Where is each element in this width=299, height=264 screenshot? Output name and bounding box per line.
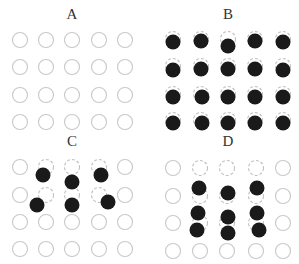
empty-circle [118,115,133,130]
empty-circle [13,160,28,175]
filled-dot [191,206,206,221]
filled-dot [36,168,51,183]
empty-circle [193,244,208,259]
dot-grid-figure: A B C D [0,0,299,264]
empty-circle [276,216,291,231]
empty-circle [13,242,28,257]
empty-circle [65,60,80,75]
filled-dot [276,116,291,131]
filled-dot [221,210,236,225]
filled-dot [101,195,116,210]
filled-dot [190,223,205,238]
empty-circle [220,244,235,259]
original-position-circle [249,161,264,176]
panel-label-b: B [223,6,233,22]
empty-circle [92,60,107,75]
filled-dot [166,35,181,50]
filled-dot [94,168,109,183]
empty-circle [39,115,54,130]
empty-circle [276,161,291,176]
empty-circle [166,161,181,176]
empty-circle [39,60,54,75]
empty-circle [92,88,107,103]
empty-circle [118,242,133,257]
filled-dot [248,116,263,131]
panel-c: C [13,133,133,257]
empty-circle [65,33,80,48]
panel-label-c: C [67,133,77,149]
figure-canvas: A B C D [0,0,299,264]
empty-circle [65,88,80,103]
filled-dot [65,175,80,190]
filled-dot [276,35,291,50]
filled-dot [250,181,265,196]
original-position-circle [220,161,235,176]
empty-circle [276,244,291,259]
empty-circle [13,33,28,48]
panel-a: A [13,6,133,130]
empty-circle [166,216,181,231]
original-position-circle [193,161,208,176]
empty-circle [13,115,28,130]
filled-dot [221,62,236,77]
filled-dot [221,226,236,241]
filled-dot [65,198,80,213]
panel-d: D [166,133,291,259]
empty-circle [118,33,133,48]
filled-dot [30,198,45,213]
filled-dot [192,181,207,196]
filled-dot [248,90,263,105]
filled-dot [252,223,267,238]
empty-circle [118,60,133,75]
empty-circle [39,88,54,103]
empty-circle [92,115,107,130]
empty-circle [92,215,107,230]
filled-dot [248,62,263,77]
panel-label-d: D [223,133,234,149]
original-position-circle [65,160,80,175]
filled-dot [194,62,209,77]
empty-circle [39,33,54,48]
filled-dot [195,116,210,131]
empty-circle [13,88,28,103]
filled-dot [276,90,291,105]
empty-circle [118,188,133,203]
empty-circle [276,189,291,204]
filled-dot [276,63,291,78]
filled-dot [250,206,265,221]
empty-circle [13,188,28,203]
filled-dot [166,116,181,131]
empty-circle [39,215,54,230]
empty-circle [166,189,181,204]
empty-circle [39,242,54,257]
empty-circle [65,215,80,230]
filled-dot [221,90,236,105]
filled-dot [195,90,210,105]
filled-dot [194,34,209,49]
filled-dot [248,34,263,49]
empty-circle [92,33,107,48]
filled-dot [221,186,236,201]
empty-circle [118,160,133,175]
filled-dot [166,63,181,78]
filled-dot [221,116,236,131]
empty-circle [65,115,80,130]
empty-circle [13,60,28,75]
empty-circle [65,242,80,257]
panel-label-a: A [67,6,78,22]
empty-circle [92,242,107,257]
empty-circle [13,215,28,230]
empty-circle [118,88,133,103]
empty-circle [118,215,133,230]
panel-b: B [166,6,291,131]
empty-circle [166,244,181,259]
filled-dot [221,39,236,54]
empty-circle [249,244,264,259]
filled-dot [166,90,181,105]
